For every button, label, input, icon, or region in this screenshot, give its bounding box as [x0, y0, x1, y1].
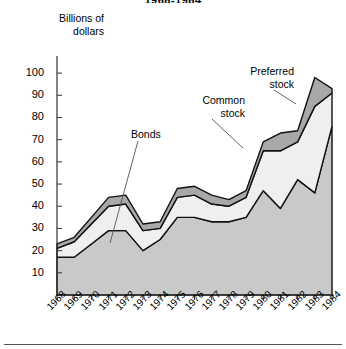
y-tick-label-100: 100	[14, 67, 44, 78]
y-tick-label-70: 70	[14, 134, 44, 145]
y-tick-label-90: 90	[14, 89, 44, 100]
footer-divider	[4, 344, 342, 345]
annotation-preferred-stock: Preferred stock	[222, 65, 294, 90]
annotation-preferred-stock-line2: stock	[269, 78, 294, 90]
y-tick-label-80: 80	[14, 111, 44, 122]
y-tick-label-50: 50	[14, 178, 44, 189]
y-tick-label-40: 40	[14, 200, 44, 211]
y-tick-label-60: 60	[14, 156, 44, 167]
y-tick-label-10: 10	[14, 267, 44, 278]
y-tick-label-30: 30	[14, 222, 44, 233]
annotation-common-stock-line1: Common	[202, 94, 245, 106]
annotation-bonds: Bonds	[131, 128, 161, 141]
annotation-common-stock-line2: stock	[220, 107, 245, 119]
annotation-preferred-stock-line1: Preferred	[250, 65, 294, 77]
chart-root: 1968-1984 Billions of dollars 1009080706…	[0, 0, 346, 349]
annotation-common-stock: Common stock	[175, 94, 245, 119]
preferred-leader	[274, 90, 296, 104]
common-leader	[212, 119, 243, 148]
y-tick-label-20: 20	[14, 245, 44, 256]
